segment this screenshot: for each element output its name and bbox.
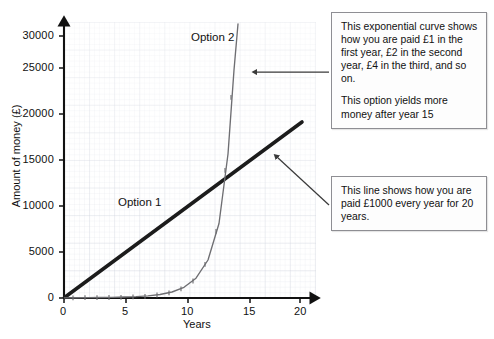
series-label-option1: Option 1 bbox=[118, 196, 161, 208]
callout-exponential-paragraph-2: This option yields more money after year… bbox=[341, 94, 478, 120]
series-option1-line bbox=[65, 122, 303, 298]
y-tick-label-10000: 10000 bbox=[0, 199, 54, 211]
callout-exponential-paragraph-1: This exponential curve shows how you are… bbox=[341, 20, 478, 85]
callout-box-exponential: This exponential curve shows how you are… bbox=[331, 12, 487, 129]
y-tick-label-30000: 30000 bbox=[0, 29, 54, 41]
y-tick-label-15000: 15000 bbox=[0, 153, 54, 165]
x-tick-label-10: 10 bbox=[181, 305, 194, 317]
x-tick-label-5: 5 bbox=[122, 305, 128, 317]
y-tick-label-20000: 20000 bbox=[0, 107, 54, 119]
callout-arrow-linear bbox=[277, 157, 329, 205]
y-tick-label-5000: 5000 bbox=[0, 245, 54, 257]
x-tick-label-20: 20 bbox=[294, 305, 307, 317]
y-tick-label-0: 0 bbox=[0, 291, 54, 303]
callout-linear-paragraph-1: This line shows how you are paid £1000 e… bbox=[341, 184, 478, 223]
x-axis-title: Years bbox=[183, 318, 211, 330]
y-axis-title: Amount of money (£) bbox=[10, 96, 22, 216]
series-label-option2: Option 2 bbox=[191, 31, 234, 43]
x-tick-label-0: 0 bbox=[60, 305, 66, 317]
x-tick-label-15: 15 bbox=[243, 305, 256, 317]
series-option2-curve bbox=[65, 24, 239, 298]
y-tick-label-25000: 25000 bbox=[0, 61, 54, 73]
chart-canvas: 30000 25000 20000 15000 10000 5000 0 0 5… bbox=[0, 0, 494, 339]
callout-box-linear: This line shows how you are paid £1000 e… bbox=[331, 176, 487, 231]
